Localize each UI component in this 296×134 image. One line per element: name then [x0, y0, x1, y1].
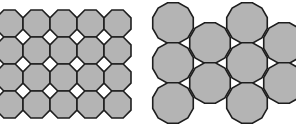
dodecagon-triangle-tiling	[0, 0, 296, 134]
dodecagon-tile	[264, 23, 296, 64]
dodecagon-tile	[153, 3, 194, 44]
dodecagon-tile	[264, 63, 296, 104]
dodecagon-tile	[153, 83, 194, 124]
dodecagon-tile	[227, 43, 268, 84]
dodecagon-tile	[153, 43, 194, 84]
dodecagon-tile	[190, 23, 231, 64]
dodecagon-tile	[190, 63, 231, 104]
tiling-figure	[0, 0, 296, 134]
dodecagon-tile	[227, 83, 268, 124]
dodecagon-tile	[227, 3, 268, 44]
